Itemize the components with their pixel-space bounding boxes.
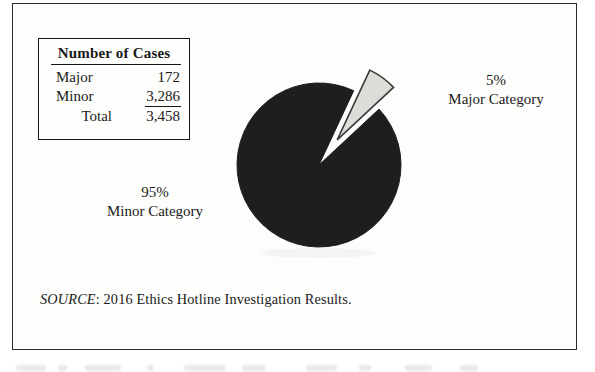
table-row-major: Major 172 [56, 68, 181, 87]
cut-off-caption-remnant [12, 364, 582, 371]
cases-table-rows: Major 172 Minor 3,286 Total 3,458 [39, 65, 189, 126]
row-label-minor: Minor [56, 87, 112, 107]
row-label-total: Total [56, 107, 114, 126]
label-minor-name: Minor Category [79, 202, 231, 221]
table-row-minor: Minor 3,286 [56, 87, 181, 107]
cases-table: Number of Cases Major 172 Minor 3,286 To… [38, 38, 190, 140]
label-major-pct: 5% [420, 71, 572, 90]
row-label-major: Major [56, 68, 112, 87]
row-value-major: 172 [112, 68, 181, 87]
table-row-total: Total 3,458 [56, 107, 181, 126]
source-note-text: : 2016 Ethics Hotline Investigation Resu… [96, 291, 352, 307]
row-value-total: 3,458 [114, 107, 181, 126]
row-value-minor: 3,286 [112, 87, 181, 107]
label-major-category: 5% Major Category [420, 71, 572, 109]
cases-table-title: Number of Cases [39, 45, 189, 62]
page-background: Number of Cases Major 172 Minor 3,286 To… [0, 0, 595, 372]
label-minor-category: 95% Minor Category [79, 183, 231, 221]
label-major-name: Major Category [420, 90, 572, 109]
source-note-prefix: SOURCE [40, 291, 96, 307]
source-note: SOURCE: 2016 Ethics Hotline Investigatio… [40, 291, 352, 308]
label-minor-pct: 95% [79, 183, 231, 202]
